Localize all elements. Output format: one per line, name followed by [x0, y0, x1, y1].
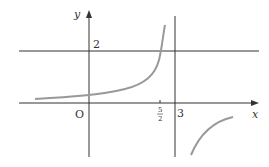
x-axis-label: x — [252, 108, 259, 121]
curve-right-branch — [191, 117, 233, 155]
svg-text:2: 2 — [158, 115, 162, 123]
horizontal-asymptote-label: 2 — [93, 38, 100, 51]
x-axis-arrow-icon — [251, 100, 259, 106]
vertical-asymptote-label: 3 — [177, 107, 184, 120]
svg-text:5: 5 — [158, 106, 162, 114]
y-axis — [86, 10, 92, 157]
function-graph: y x O 2 3 5 2 — [0, 0, 269, 167]
five-halves-label: 5 2 — [157, 106, 163, 123]
curve-left-branch — [35, 25, 165, 99]
y-axis-label: y — [73, 8, 81, 21]
y-axis-arrow-icon — [86, 10, 92, 18]
origin-label: O — [75, 108, 84, 121]
x-axis — [19, 100, 259, 106]
